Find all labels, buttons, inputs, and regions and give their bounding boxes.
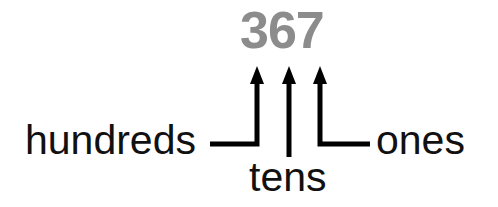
label-ones: ones [376,118,465,162]
label-hundreds: hundreds [25,118,196,162]
tens-arrow [282,66,296,157]
label-tens: tens [249,155,327,199]
hundreds-arrow [210,66,264,144]
ones-arrow [313,66,370,144]
